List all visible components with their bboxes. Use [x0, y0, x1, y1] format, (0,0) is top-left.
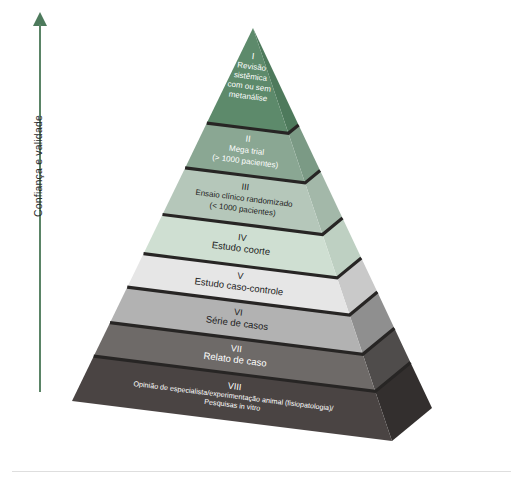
tier-roman-iii: III: [241, 182, 250, 193]
pyramid-graphic: IRevisãosistêmicacom ou semmetanáliseIIM…: [0, 0, 523, 481]
evidence-pyramid-figure: Confiança e validade IRevisãosistêmicaco…: [0, 0, 523, 481]
bottom-divider: [12, 471, 511, 472]
